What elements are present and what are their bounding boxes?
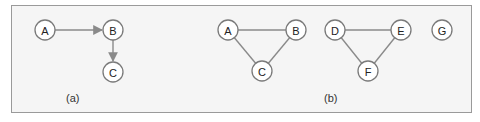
node-a: A xyxy=(35,20,55,40)
node-label: C xyxy=(258,66,266,78)
node-d: D xyxy=(325,20,345,40)
edge-e-f xyxy=(374,38,394,63)
node-label: C xyxy=(109,67,117,79)
edge-b-c xyxy=(268,38,289,64)
node-label: G xyxy=(438,25,447,37)
node-label: B xyxy=(292,25,299,37)
node-b: B xyxy=(103,20,123,40)
node-label: D xyxy=(331,25,339,37)
node-label: F xyxy=(365,66,372,78)
node-label: B xyxy=(109,25,116,37)
edge-a-c xyxy=(234,38,255,64)
node-e: E xyxy=(391,20,411,40)
node-g: G xyxy=(432,20,452,40)
node-b: B xyxy=(286,20,306,40)
node-a: A xyxy=(218,20,238,40)
panel-caption: (a) xyxy=(66,92,79,104)
node-c: C xyxy=(252,61,272,81)
node-label: A xyxy=(224,25,232,37)
node-f: F xyxy=(358,61,378,81)
node-label: E xyxy=(397,25,404,37)
node-label: A xyxy=(41,25,49,37)
graph-diagram: ABCABCDEFG (a)(b) xyxy=(0,0,480,122)
edge-d-f xyxy=(341,38,361,63)
node-c: C xyxy=(103,62,123,82)
captions-layer: (a)(b) xyxy=(66,92,337,104)
panel-caption: (b) xyxy=(324,92,337,104)
